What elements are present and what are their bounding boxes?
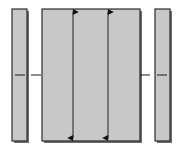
diagram-canvas (0, 0, 180, 149)
center-panel (42, 9, 140, 141)
diagram-svg (0, 0, 180, 149)
